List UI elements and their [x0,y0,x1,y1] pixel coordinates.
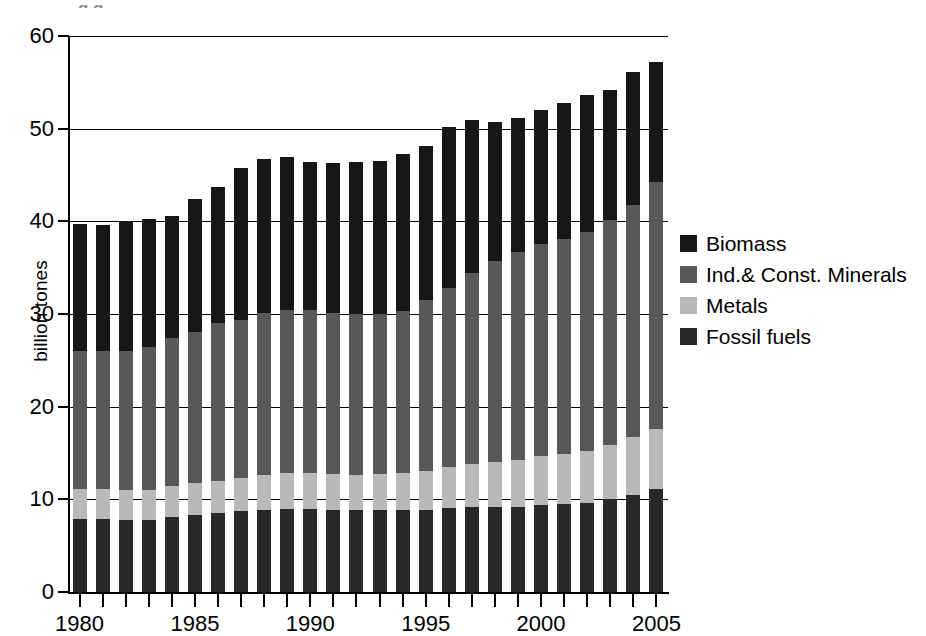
x-tick-mark [171,594,173,607]
bar-segment [534,244,548,456]
x-tick-mark [102,594,104,607]
bar-1993 [373,36,387,592]
bar-segment [373,314,387,474]
x-tick-label: 2005 [632,612,681,636]
bar-segment [557,454,571,504]
y-tick-mark [58,220,69,222]
bar-segment [165,486,179,517]
x-tick-label: 2000 [517,612,566,636]
bar-2002 [580,36,594,592]
bar-1999 [511,36,525,592]
bar-2004 [626,36,640,592]
bar-segment [626,495,640,592]
bar-segment [303,473,317,508]
bar-segment [188,515,202,592]
bar-segment [234,511,248,592]
bar-segment [119,351,133,490]
y-tick-label: 40 [30,210,54,232]
bar-1980 [73,36,87,592]
bar-segment [142,347,156,490]
bar-segment [373,510,387,592]
bar-segment [442,127,456,288]
bar-segment [280,509,294,592]
bar-segment [119,490,133,520]
bar-segment [534,456,548,505]
x-tick-mark [194,594,196,607]
bar-segment [465,120,479,273]
bar-segment [511,118,525,251]
bar-segment [119,221,133,351]
bar-segment [96,351,110,489]
bar-segment [142,490,156,520]
y-tick-label: 20 [30,396,54,418]
bar-segment [326,510,340,592]
x-tick-mark [494,594,496,607]
legend-item-metals: Metals [680,290,920,321]
bar-segment [419,300,433,471]
bar-segment [119,520,133,592]
bar-segment [96,225,110,351]
bar-1985 [188,36,202,592]
bar-segment [465,464,479,507]
bar-segment [188,332,202,483]
bar-segment [280,157,294,310]
y-tick-mark [58,498,69,500]
bar-segment [511,507,525,592]
bar-segment [234,320,248,478]
bar-segment [649,429,663,489]
x-tick-mark [402,594,404,607]
bar-segment [280,473,294,508]
bar-1982 [119,36,133,592]
legend: BiomassInd.& Const. MineralsMetalsFossil… [680,228,920,352]
bar-segment [419,471,433,510]
y-tick-mark [58,313,69,315]
bar-segment [488,507,502,592]
bar-segment [534,505,548,592]
x-tick-mark [217,594,219,607]
bar-segment [580,95,594,232]
bar-segment [257,475,271,509]
bar-segment [257,313,271,475]
x-tick-mark [540,594,542,607]
y-tick-label: 0 [42,581,54,603]
legend-swatch-icon [680,297,697,314]
y-tick-mark [58,35,69,37]
x-tick-label: 1980 [55,612,104,636]
bar-segment [73,224,87,351]
gridline [68,129,668,130]
x-tick-mark [379,594,381,607]
y-tick-label: 10 [30,488,54,510]
bar-segment [142,520,156,592]
bar-segment [580,232,594,451]
bar-segment [465,507,479,592]
bar-segment [580,451,594,503]
y-tick-label: 30 [30,303,54,325]
x-tick-mark [240,594,242,607]
gridline [68,314,668,315]
bar-segment [188,199,202,332]
bar-1994 [396,36,410,592]
bar-segment [580,503,594,592]
bar-segment [396,311,410,473]
bar-segment [603,499,617,592]
x-tick-mark [79,594,81,607]
bar-segment [465,273,479,464]
bar-segment [649,182,663,428]
bar-segment [396,154,410,312]
x-tick-mark [355,594,357,607]
bar-segment [234,478,248,511]
bar-segment [442,288,456,467]
bar-2005 [649,36,663,592]
bar-segment [349,314,363,475]
legend-item-minerals: Ind.& Const. Minerals [680,259,920,290]
bar-segment [373,474,387,510]
legend-swatch-icon [680,266,697,283]
bar-segment [488,122,502,261]
bar-1996 [442,36,456,592]
bar-1988 [257,36,271,592]
bar-segment [211,187,225,323]
bar-segment [303,509,317,592]
bar-segment [488,462,502,506]
bar-2001 [557,36,571,592]
x-tick-mark [632,594,634,607]
